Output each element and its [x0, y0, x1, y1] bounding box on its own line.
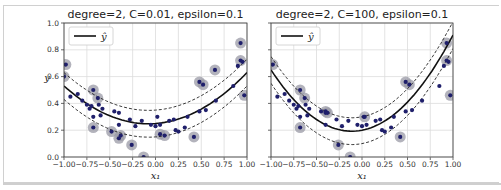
data-point: [442, 64, 446, 68]
chart-title: degree=2, C=0.01, epsilon=0.1: [67, 8, 243, 21]
data-point: [153, 124, 157, 128]
data-point: [236, 64, 240, 68]
data-point: [214, 99, 218, 103]
data-point: [176, 129, 180, 133]
data-point: [201, 83, 205, 87]
data-point: [149, 123, 153, 127]
data-point: [97, 103, 101, 107]
y-tick-label: 0.2: [47, 126, 59, 135]
x-tick-label: 0.00: [354, 160, 371, 169]
data-point: [158, 132, 162, 136]
y-tick-label: 0.8: [47, 45, 59, 54]
data-point: [336, 143, 340, 147]
data-point: [303, 103, 307, 107]
data-point: [68, 95, 72, 99]
data-point: [109, 129, 113, 133]
data-point: [197, 80, 201, 84]
data-point: [389, 125, 393, 129]
data-point: [404, 109, 408, 113]
data-point: [96, 96, 100, 100]
data-point: [448, 93, 452, 97]
x-tick-label: −0.25: [328, 160, 351, 169]
data-point: [303, 96, 307, 100]
x-tick-label: −0.50: [305, 160, 328, 169]
data-point: [319, 109, 323, 113]
data-point: [242, 93, 246, 97]
data-point: [89, 104, 93, 108]
data-point: [407, 83, 411, 87]
legend: ŷ: [69, 27, 113, 45]
x-tick-label: 0.25: [170, 160, 187, 169]
y-tick-label: 1.0: [47, 19, 59, 28]
data-point: [283, 92, 287, 96]
x-axis-label: x₁: [151, 170, 161, 181]
data-point: [167, 119, 171, 123]
data-point: [445, 58, 449, 62]
data-point: [398, 135, 402, 139]
data-point: [76, 92, 80, 96]
data-point: [437, 84, 441, 88]
data-point: [346, 119, 350, 123]
data-point: [374, 119, 378, 123]
x-tick-label: −0.50: [98, 160, 121, 169]
x-tick-label: −0.75: [75, 160, 98, 169]
x-tick-label: 0.25: [376, 160, 393, 169]
data-point: [360, 124, 364, 128]
chart-panel-1: −1.00−0.75−0.50−0.250.000.250.500.751.00…: [43, 8, 255, 181]
data-point: [324, 123, 328, 127]
data-point: [287, 99, 291, 103]
data-point: [340, 124, 344, 128]
x-tick-label: 0.75: [422, 160, 439, 169]
data-point: [99, 113, 103, 117]
data-point: [155, 115, 159, 119]
legend-label: ŷ: [307, 31, 314, 42]
data-point: [192, 135, 196, 139]
data-point: [296, 104, 300, 108]
x-tick-label: 1.00: [445, 160, 462, 169]
data-point: [112, 109, 116, 113]
data-point: [292, 103, 296, 107]
data-point: [158, 123, 162, 127]
data-point: [378, 117, 382, 121]
x-tick-label: 0.50: [193, 160, 210, 169]
data-point: [383, 129, 387, 133]
data-point: [275, 95, 279, 99]
data-point: [128, 117, 132, 121]
x-tick-label: −1.00: [260, 160, 283, 169]
data-point: [119, 133, 123, 137]
data-point: [130, 143, 134, 147]
data-point: [183, 125, 187, 129]
data-point: [91, 125, 95, 129]
y-tick-label: 0.0: [47, 153, 59, 162]
data-point: [231, 84, 235, 88]
data-point: [363, 115, 367, 119]
data-point: [298, 125, 302, 129]
data-point: [117, 111, 121, 115]
x-tick-label: −0.75: [282, 160, 305, 169]
data-point: [305, 113, 309, 117]
data-point: [204, 108, 208, 112]
chart-title: degree=2, C=100, epsilon=0.1: [276, 8, 449, 21]
data-point: [80, 99, 84, 103]
data-point: [172, 117, 176, 121]
data-point: [238, 41, 242, 45]
data-point: [420, 99, 424, 103]
data-point: [298, 115, 302, 119]
data-point: [364, 123, 368, 127]
legend-label: ŷ: [100, 31, 107, 42]
data-point: [197, 109, 201, 113]
data-point: [404, 80, 408, 84]
y-tick-label: 0.4: [47, 99, 59, 108]
data-point: [392, 115, 396, 119]
data-point: [185, 115, 189, 119]
legend: ŷ: [276, 27, 320, 45]
data-point: [445, 41, 449, 45]
data-point: [334, 117, 338, 121]
data-point: [91, 88, 95, 92]
data-point: [117, 123, 121, 127]
data-point: [307, 107, 311, 111]
data-point: [133, 124, 137, 128]
x-tick-label: 0.00: [147, 160, 164, 169]
data-point: [85, 103, 89, 107]
data-point: [325, 111, 329, 115]
